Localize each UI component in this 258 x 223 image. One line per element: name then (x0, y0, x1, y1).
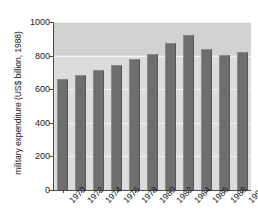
bar (111, 65, 122, 190)
x-tick-label: 1990 (246, 198, 253, 205)
x-tick-label: 1984 (192, 198, 199, 205)
y-tick-label: 800 (18, 51, 50, 61)
bar (75, 75, 86, 190)
bar (219, 55, 230, 190)
y-tick-label: 1000 (18, 17, 50, 27)
x-tick-mark (188, 190, 189, 193)
x-tick-label: 1972 (85, 198, 92, 205)
x-tick-label: 1986 (210, 198, 217, 205)
x-tick-label: 1976 (121, 198, 128, 205)
y-tick-label: 400 (18, 118, 50, 128)
y-tick-label: 0 (18, 185, 50, 195)
bar-chart: military expenditure (US$ billion, 1988)… (0, 0, 258, 223)
x-tick-label: 1982 (174, 198, 181, 205)
y-tick-mark (49, 156, 53, 157)
y-tick-label: 600 (18, 84, 50, 94)
y-tick-label: 200 (18, 151, 50, 161)
y-tick-mark (49, 56, 53, 57)
bar (93, 70, 104, 190)
bar (183, 35, 194, 190)
x-tick-label: 1988 (228, 198, 235, 205)
y-tick-mark (49, 89, 53, 90)
bar (147, 54, 158, 190)
x-tick-label: 1974 (103, 198, 110, 205)
x-tick-mark (63, 190, 64, 193)
bar (57, 79, 68, 190)
x-axis-tick-labels: 1970197219741976197819801982198419861988… (54, 190, 251, 223)
bar (237, 52, 248, 190)
x-tick-mark (117, 190, 118, 193)
y-tick-mark (49, 22, 53, 23)
x-tick-mark (99, 190, 100, 193)
bar (165, 43, 176, 190)
y-tick-mark (49, 123, 53, 124)
bar (129, 59, 140, 190)
x-tick-mark (135, 190, 136, 193)
x-tick-label: 1978 (139, 198, 146, 205)
y-tick-mark (49, 190, 53, 191)
y-axis-tick-labels: 02004006008001000 (18, 0, 50, 223)
plot-area (54, 22, 251, 190)
x-tick-label: 1970 (67, 198, 74, 205)
bar (201, 49, 212, 190)
x-tick-label: 1980 (157, 198, 164, 205)
x-tick-mark (170, 190, 171, 193)
x-tick-mark (242, 190, 243, 193)
x-tick-mark (206, 190, 207, 193)
x-tick-mark (153, 190, 154, 193)
bars-group (54, 22, 251, 190)
x-tick-mark (224, 190, 225, 193)
x-tick-mark (81, 190, 82, 193)
